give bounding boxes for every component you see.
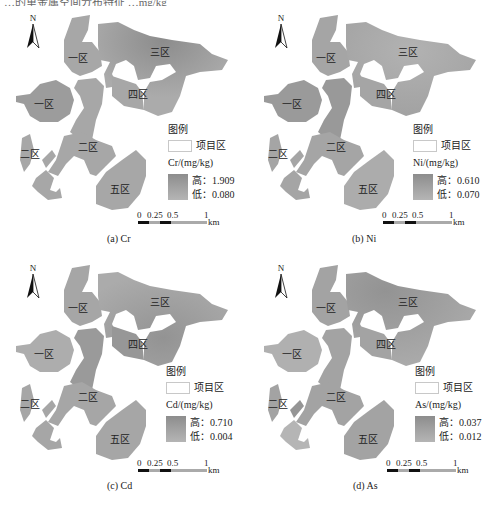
map-panel-cr: N 一区 一区 三区 四区 二区 二区 五区 图例 项目区 Cr/(mg/kg)… <box>0 0 247 250</box>
zone-label: 四区 <box>128 90 148 100</box>
low-value: 0.070 <box>457 189 480 200</box>
scale-bar: 0 0.25 0.5 1 km <box>382 210 472 228</box>
scale-bar: 0 0.25 0.5 1 km <box>137 210 227 228</box>
scale-unit: km <box>208 217 220 227</box>
legend-color-ramp: 高：0.610 低：0.070 <box>413 174 493 202</box>
scale-bar: 0 0.25 0.5 1 km <box>386 458 476 476</box>
panel-caption: (c) Cd <box>107 480 132 491</box>
legend-unit: Cr/(mg/kg) <box>168 157 248 169</box>
map-legend: 图例 项目区 Ni/(mg/kg) 高：0.610 低：0.070 <box>413 124 493 202</box>
scale-tick: 0 <box>137 458 142 468</box>
scale-tick: 0.25 <box>392 210 408 220</box>
legend-color-ramp: 高：1.909 低：0.080 <box>168 174 248 202</box>
legend-project-area: 项目区 <box>168 140 248 152</box>
zone-label: 一区 <box>316 304 336 314</box>
zone-label: 三区 <box>150 48 170 58</box>
legend-unit: Cd/(mg/kg) <box>166 399 246 411</box>
map-panel-ni: N 一区 一区 三区 四区 二区 二区 五区 图例 项目区 Ni/(mg/kg)… <box>248 0 495 250</box>
scale-unit: km <box>208 465 220 475</box>
north-label: N <box>278 263 285 273</box>
legend-unit: Ni/(mg/kg) <box>413 157 493 169</box>
map-legend: 图例 项目区 Cd/(mg/kg) 高：0.710 低：0.004 <box>166 366 246 444</box>
high-label: 高： <box>437 175 457 186</box>
scale-tick: 0.25 <box>147 210 163 220</box>
gradient-swatch <box>413 174 433 200</box>
north-label: N <box>278 13 285 23</box>
high-value: 0.610 <box>457 175 480 186</box>
low-label: 低： <box>192 189 212 200</box>
zone-label: 五区 <box>110 185 130 195</box>
panel-caption: (a) Cr <box>107 233 131 244</box>
high-label: 高： <box>439 417 459 428</box>
zone-label: 四区 <box>376 90 396 100</box>
scale-tick: 0.5 <box>416 458 427 468</box>
legend-title: 图例 <box>415 366 495 378</box>
legend-color-ramp: 高：0.037 低：0.012 <box>415 416 495 444</box>
low-value: 0.080 <box>212 189 235 200</box>
zone-label: 三区 <box>150 298 170 308</box>
legend-title: 图例 <box>413 124 493 136</box>
zone-label: 二区 <box>20 150 40 160</box>
zone-label: 五区 <box>358 185 378 195</box>
north-arrow: N <box>27 263 39 298</box>
zone-label: 二区 <box>78 393 98 403</box>
zone-label: 二区 <box>268 400 288 410</box>
high-value: 0.037 <box>459 417 482 428</box>
scale-tick: 0 <box>382 210 387 220</box>
zone-label: 一区 <box>282 350 302 360</box>
low-value: 0.012 <box>459 431 482 442</box>
panel-caption: (b) Ni <box>352 233 376 244</box>
low-value: 0.004 <box>210 431 233 442</box>
panel-caption: (d) As <box>353 480 378 491</box>
high-label: 高： <box>192 175 212 186</box>
project-area-swatch <box>415 382 439 394</box>
map-panel-as: N 一区 一区 三区 四区 二区 二区 五区 图例 项目区 As/(mg/kg)… <box>248 250 495 500</box>
scale-unit: km <box>453 217 465 227</box>
zone-label: 一区 <box>316 54 336 64</box>
north-arrow: N <box>275 263 287 298</box>
low-label: 低： <box>190 431 210 442</box>
map-legend: 图例 项目区 As/(mg/kg) 高：0.037 低：0.012 <box>415 366 495 444</box>
scale-unit: km <box>457 465 469 475</box>
zone-label: 二区 <box>326 393 346 403</box>
north-arrow: N <box>275 13 287 48</box>
zone-label: 二区 <box>326 143 346 153</box>
legend-project-area: 项目区 <box>166 382 246 394</box>
zone-label: 一区 <box>34 100 54 110</box>
zone-label: 四区 <box>128 340 148 350</box>
scale-tick: 0.5 <box>167 458 178 468</box>
project-area-label: 项目区 <box>194 382 224 394</box>
project-area-swatch <box>166 382 190 394</box>
north-label: N <box>30 263 37 273</box>
zone-label: 四区 <box>376 340 396 350</box>
legend-project-area: 项目区 <box>415 382 495 394</box>
zone-label: 一区 <box>34 350 54 360</box>
legend-color-ramp: 高：0.710 低：0.004 <box>166 416 246 444</box>
legend-title: 图例 <box>168 124 248 136</box>
zone-label: 二区 <box>20 400 40 410</box>
map-panel-cd: N 一区 一区 三区 四区 二区 二区 五区 图例 项目区 Cd/(mg/kg)… <box>0 250 247 500</box>
project-area-swatch <box>168 140 192 152</box>
high-label: 高： <box>190 417 210 428</box>
low-label: 低： <box>439 431 459 442</box>
scale-tick: 0 <box>386 458 391 468</box>
scale-tick: 0 <box>137 210 142 220</box>
zone-label: 三区 <box>398 298 418 308</box>
gradient-swatch <box>166 416 186 442</box>
legend-unit: As/(mg/kg) <box>415 399 495 411</box>
scale-tick: 0.5 <box>412 210 423 220</box>
project-area-label: 项目区 <box>443 382 473 394</box>
zone-label: 一区 <box>68 304 88 314</box>
low-label: 低： <box>437 189 457 200</box>
project-area-swatch <box>413 140 437 152</box>
zone-label: 五区 <box>110 435 130 445</box>
scale-bar: 0 0.25 0.5 1 km <box>137 458 227 476</box>
gradient-swatch <box>415 416 435 442</box>
scale-tick: 0.25 <box>147 458 163 468</box>
project-area-label: 项目区 <box>441 140 471 152</box>
north-arrow: N <box>27 13 39 48</box>
legend-title: 图例 <box>166 366 246 378</box>
zone-label: 三区 <box>398 48 418 58</box>
zone-label: 二区 <box>78 143 98 153</box>
zone-label: 五区 <box>358 435 378 445</box>
